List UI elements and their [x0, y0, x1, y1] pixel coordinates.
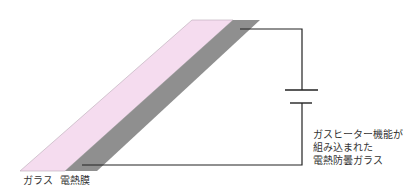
wire-top: [240, 29, 302, 90]
description-label: ガスヒーター機能が 組み込まれた 電熱防曇ガラス: [313, 128, 403, 167]
description-line-2: 組み込まれた: [313, 141, 403, 154]
glass-label: ガラス: [23, 174, 53, 187]
heating-film: [65, 20, 260, 171]
glass-pane: [20, 20, 233, 171]
description-line-1: ガスヒーター機能が: [313, 128, 403, 141]
heating-film-label: 電熱膜: [60, 174, 90, 187]
description-line-3: 電熱防曇ガラス: [313, 154, 403, 167]
